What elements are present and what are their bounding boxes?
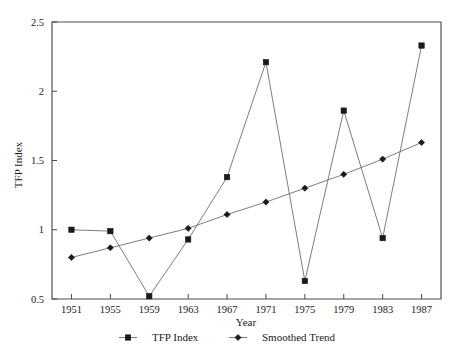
x-tick-label: 1963 [178, 304, 199, 315]
y-tick-label: 1.5 [31, 155, 44, 166]
x-tick-label: 1951 [61, 304, 82, 315]
y-tick-label: 2.5 [31, 17, 44, 28]
x-axis-title: Year [236, 316, 257, 328]
x-tick-label: 1983 [372, 304, 393, 315]
x-tick-label: 1971 [255, 304, 276, 315]
x-tick-label: 1955 [100, 304, 121, 315]
x-tick-label: 1987 [411, 304, 432, 315]
legend-label: TFP Index [152, 331, 199, 343]
data-point-marker-square [263, 59, 268, 64]
y-axis-title-group: TFP Index [12, 141, 24, 188]
y-axis-title: TFP Index [12, 141, 24, 188]
data-point-marker-square [185, 237, 190, 242]
data-point-marker-square [341, 108, 346, 113]
data-point-marker-square [108, 228, 113, 233]
data-point-marker-square [125, 335, 130, 340]
data-point-marker-square [69, 227, 74, 232]
y-tick-label: 2 [39, 86, 44, 97]
data-point-marker-square [302, 278, 307, 283]
x-axis-title-group: Year [236, 316, 257, 328]
data-point-marker-square [380, 235, 385, 240]
y-tick-label: 1 [39, 224, 44, 235]
x-tick-label: 1975 [294, 304, 315, 315]
chart-figure: 0.511.522.5 1951195519591963196719711975… [0, 0, 461, 359]
data-point-marker-square [147, 294, 152, 299]
x-tick-label: 1959 [139, 304, 160, 315]
x-tick-label: 1979 [333, 304, 354, 315]
data-point-marker-square [419, 43, 424, 48]
data-point-marker-square [224, 174, 229, 179]
y-tick-label: 0.5 [31, 294, 44, 305]
x-tick-label: 1967 [217, 304, 238, 315]
chart-canvas: 0.511.522.5 1951195519591963196719711975… [0, 0, 461, 359]
legend-label: Smoothed Trend [262, 331, 336, 343]
